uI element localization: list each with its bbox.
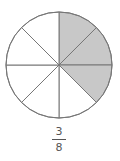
denominator: 8 <box>49 142 69 153</box>
circle-slices <box>6 12 112 118</box>
fraction-label: 3 8 <box>49 126 69 153</box>
numerator: 3 <box>49 126 69 137</box>
fraction-bar <box>52 139 66 140</box>
fraction-circle <box>0 0 120 122</box>
